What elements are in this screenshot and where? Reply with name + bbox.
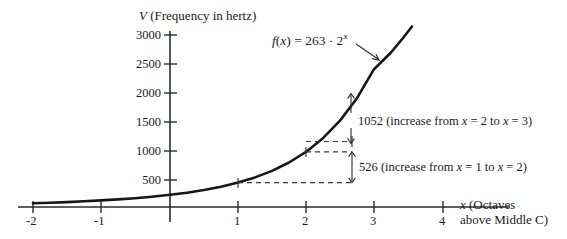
x-tick-label-4: 4 (439, 214, 445, 229)
annotation-1052-mid: = 2 to (467, 114, 503, 128)
exponential-curve (33, 27, 412, 204)
annotation-increase-1052: 1052 (increase from x = 2 to x = 3) (358, 114, 532, 129)
x-tick-label-3: 3 (370, 214, 376, 229)
y-axis-title-var: V (139, 8, 147, 23)
y-axis-title-rest: (Frequency in hertz) (147, 8, 256, 23)
x-axis-title-line2: above Middle C) (460, 212, 548, 227)
y-tick-label-1500: 1500 (117, 115, 161, 130)
x-axis-title-line1: x (Octaves (460, 197, 515, 212)
annotation-526-suffix: = 2) (503, 160, 527, 174)
y-tick-label-1000: 1000 (117, 144, 161, 159)
annotation-1052-value: 1052 (358, 114, 383, 128)
x-tick-label--1: -1 (94, 214, 104, 229)
annotation-1052-suffix: = 3) (508, 114, 532, 128)
annotation-526-prefix: (increase from (378, 160, 457, 174)
x-tick-label-2: 2 (302, 214, 308, 229)
y-tick-label-2500: 2500 (117, 57, 161, 72)
function-label-equals: = 263 · 2 (291, 33, 344, 48)
y-tick-label-2000: 2000 (117, 86, 161, 101)
x-tick-label--2: -2 (26, 214, 36, 229)
annotation-526-mid: = 1 to (462, 160, 498, 174)
y-axis-title: V (Frequency in hertz) (139, 8, 256, 23)
annotation-increase-526: 526 (increase from x = 1 to x = 2) (359, 160, 527, 175)
y-tick-label-500: 500 (117, 173, 161, 188)
x-axis-title-rest: (Octaves (466, 197, 515, 212)
annotation-1052-prefix: (increase from (383, 114, 462, 128)
exponential-growth-chart: V (Frequency in hertz) 3000 2500 2000 15… (0, 0, 567, 239)
function-label-pointer (356, 44, 379, 60)
y-tick-label-3000: 3000 (117, 28, 161, 43)
increase-526-arrow (349, 152, 356, 183)
x-tick-label-1: 1 (234, 214, 240, 229)
function-label: f(x) = 263 · 2x (272, 31, 347, 48)
annotation-526-value: 526 (359, 160, 378, 174)
function-label-exponent: x (343, 31, 347, 41)
